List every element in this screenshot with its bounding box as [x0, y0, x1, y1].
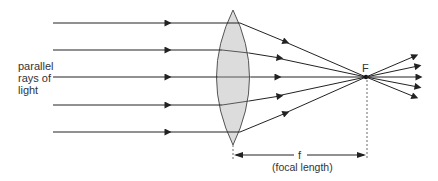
converging-lens: [217, 10, 250, 145]
diverging-rays: [366, 56, 419, 97]
incoming-rays-label-line3: light: [18, 84, 38, 96]
lens-diagram: parallel rays of light F f (focal length…: [0, 0, 438, 181]
converging-rays: [240, 23, 366, 132]
focal-length-symbol: f: [298, 149, 302, 161]
incoming-rays-label-line1: parallel: [18, 60, 53, 72]
focal-point-label: F: [362, 62, 369, 74]
incoming-rays-label-line2: rays of: [18, 72, 52, 84]
focal-length-caption: (focal length): [272, 161, 333, 173]
incoming-rays: [53, 23, 240, 132]
